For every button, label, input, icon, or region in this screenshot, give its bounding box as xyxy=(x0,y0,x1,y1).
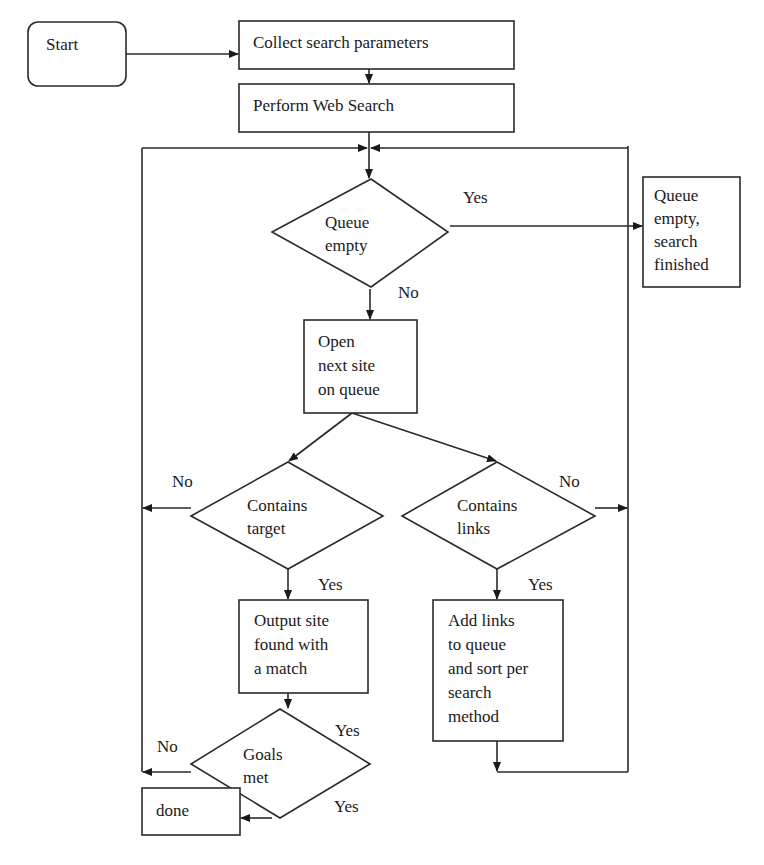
open-next-label-1: Open xyxy=(318,332,355,351)
add-links-label-1: Add links xyxy=(448,611,515,630)
goals-met-label-1: Goals xyxy=(243,745,283,764)
node-queue-empty: Queue empty xyxy=(272,179,448,287)
node-perform: Perform Web Search xyxy=(239,84,514,132)
connectors xyxy=(126,54,642,818)
edge-open-target xyxy=(289,413,352,461)
output-site-label-2: found with xyxy=(254,635,329,654)
node-output-site: Output site found with a match xyxy=(239,600,368,693)
label-target-yes: Yes xyxy=(318,575,343,594)
add-links-label-2: to queue xyxy=(448,635,506,654)
node-start: Start xyxy=(28,22,126,86)
node-contains-target: Contains target xyxy=(191,462,383,569)
label-goals-no: No xyxy=(157,737,178,756)
queue-empty-label-1: Queue xyxy=(325,213,369,232)
queue-empty-label-2: empty xyxy=(325,236,368,255)
label-queue-yes: Yes xyxy=(463,188,488,207)
add-links-label-4: search xyxy=(448,683,492,702)
output-site-label-3: a match xyxy=(254,659,308,678)
node-collect: Collect search parameters xyxy=(239,21,514,69)
node-finished: Queue empty, search finished xyxy=(643,177,740,287)
node-add-links: Add links to queue and sort per search m… xyxy=(433,600,563,741)
edge-open-links xyxy=(352,413,496,461)
label-links-yes: Yes xyxy=(528,575,553,594)
finished-label-2: empty, xyxy=(654,209,700,228)
label-goals-yes-top: Yes xyxy=(335,721,360,740)
done-label: done xyxy=(156,801,189,820)
output-site-label-1: Output site xyxy=(254,611,329,630)
label-links-no: No xyxy=(559,472,580,491)
contains-target-label-2: target xyxy=(247,519,286,538)
start-terminator xyxy=(28,22,126,86)
open-next-label-3: on queue xyxy=(318,380,380,399)
label-target-no: No xyxy=(172,472,193,491)
finished-label-3: search xyxy=(654,232,698,251)
node-open-next: Open next site on queue xyxy=(304,320,417,413)
queue-empty-diamond xyxy=(272,179,448,287)
goals-met-label-2: met xyxy=(243,768,269,787)
finished-label-1: Queue xyxy=(654,186,698,205)
finished-label-4: finished xyxy=(654,255,709,274)
contains-links-label-1: Contains xyxy=(457,496,517,515)
add-links-label-5: method xyxy=(448,707,499,726)
contains-target-label-1: Contains xyxy=(247,496,307,515)
perform-label: Perform Web Search xyxy=(253,96,394,115)
flowchart: Start Collect search parameters Perform … xyxy=(0,0,764,865)
contains-links-label-2: links xyxy=(457,519,490,538)
node-done: done xyxy=(142,788,240,835)
contains-target-diamond xyxy=(191,462,383,569)
label-goals-yes-bottom: Yes xyxy=(334,797,359,816)
open-next-label-2: next site xyxy=(318,356,375,375)
start-label: Start xyxy=(46,35,78,54)
label-queue-no: No xyxy=(398,283,419,302)
collect-label: Collect search parameters xyxy=(253,33,429,52)
add-links-label-3: and sort per xyxy=(448,659,529,678)
